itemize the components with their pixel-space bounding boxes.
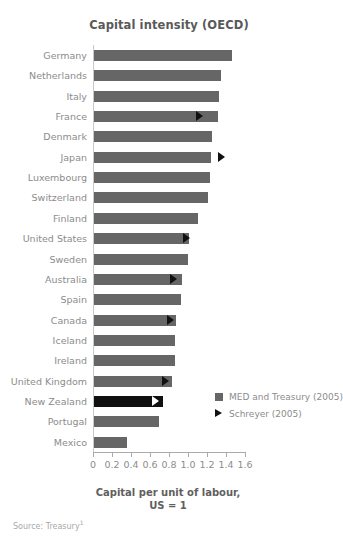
category-label: Germany xyxy=(0,45,87,66)
bar xyxy=(94,91,219,102)
chart-row: Mexico xyxy=(0,432,338,453)
bar xyxy=(94,437,127,448)
category-label: Italy xyxy=(0,86,87,107)
triangle-marker-icon xyxy=(215,409,222,417)
bar xyxy=(94,131,212,142)
x-tick-mark xyxy=(93,452,94,457)
x-axis-title: Capital per unit of labour, US = 1 xyxy=(40,486,296,512)
chart-row: Spain xyxy=(0,289,338,310)
legend-item-schreyer: Schreyer (2005) xyxy=(215,406,338,423)
source-text: Source: Treasury xyxy=(13,522,80,531)
chart-row: Finland xyxy=(0,208,338,229)
chart-row: United States xyxy=(0,228,338,249)
x-tick-mark xyxy=(245,452,246,457)
x-tick-label: 1.6 xyxy=(228,459,262,470)
bar xyxy=(94,294,181,305)
chart-row: Ireland xyxy=(0,350,338,371)
bar xyxy=(94,315,176,326)
bar xyxy=(94,355,175,366)
bar xyxy=(94,376,172,387)
schreyer-marker-icon xyxy=(218,152,225,162)
x-tick-mark xyxy=(188,452,189,457)
chart-legend: MED and Treasury (2005) Schreyer (2005) xyxy=(215,389,338,423)
category-label: Denmark xyxy=(0,126,87,147)
chart-row: France xyxy=(0,106,338,127)
category-label: Switzerland xyxy=(0,187,87,208)
x-tick-mark xyxy=(112,452,113,457)
category-label: Sweden xyxy=(0,249,87,270)
x-axis-title-line1: Capital per unit of labour, xyxy=(96,487,241,498)
schreyer-marker-icon xyxy=(183,233,190,243)
x-tick-mark xyxy=(131,452,132,457)
category-label: Portugal xyxy=(0,411,87,432)
schreyer-marker-icon xyxy=(152,396,159,406)
legend-item-med-treasury: MED and Treasury (2005) xyxy=(215,389,338,406)
chart-row: Canada xyxy=(0,310,338,331)
schreyer-marker-icon xyxy=(162,376,169,386)
x-tick-mark xyxy=(207,452,208,457)
bar xyxy=(94,213,198,224)
bar xyxy=(94,50,232,61)
chart-row: Italy xyxy=(0,86,338,107)
legend-label-schreyer: Schreyer (2005) xyxy=(229,406,302,423)
category-label: Netherlands xyxy=(0,65,87,86)
category-label: United Kingdom xyxy=(0,371,87,392)
category-label: Mexico xyxy=(0,432,87,453)
legend-label-med-treasury: MED and Treasury (2005) xyxy=(229,389,343,406)
category-label: Ireland xyxy=(0,350,87,371)
bar xyxy=(94,70,221,81)
chart-row: Japan xyxy=(0,147,338,168)
category-label: Iceland xyxy=(0,330,87,351)
source-footnote-marker: 1 xyxy=(80,519,84,526)
chart-title: Capital intensity (OECD) xyxy=(0,18,338,32)
category-label: Japan xyxy=(0,147,87,168)
category-label: France xyxy=(0,106,87,127)
bar xyxy=(94,172,210,183)
chart-row: Netherlands xyxy=(0,65,338,86)
category-label: Australia xyxy=(0,269,87,290)
bar xyxy=(94,254,188,265)
bar xyxy=(94,335,175,346)
x-tick-mark xyxy=(169,452,170,457)
source-note: Source: Treasury1 xyxy=(13,519,83,531)
category-label: Luxembourg xyxy=(0,167,87,188)
chart-row: Switzerland xyxy=(0,187,338,208)
category-label: Canada xyxy=(0,310,87,331)
category-label: Spain xyxy=(0,289,87,310)
schreyer-marker-icon xyxy=(170,274,177,284)
bar xyxy=(94,416,159,427)
x-tick-mark xyxy=(150,452,151,457)
chart-row: Iceland xyxy=(0,330,338,351)
chart-row: Germany xyxy=(0,45,338,66)
square-marker-icon xyxy=(215,393,223,401)
chart-row: Luxembourg xyxy=(0,167,338,188)
chart-row: Australia xyxy=(0,269,338,290)
category-label: New Zealand xyxy=(0,391,87,412)
bar xyxy=(94,192,208,203)
category-label: United States xyxy=(0,228,87,249)
schreyer-marker-icon xyxy=(196,111,203,121)
x-tick-mark xyxy=(226,452,227,457)
schreyer-marker-icon xyxy=(167,315,174,325)
category-label: Finland xyxy=(0,208,87,229)
bar xyxy=(94,152,211,163)
bar xyxy=(94,233,189,244)
chart-row: Denmark xyxy=(0,126,338,147)
x-axis-title-line2: US = 1 xyxy=(40,499,296,512)
chart-row: Sweden xyxy=(0,249,338,270)
